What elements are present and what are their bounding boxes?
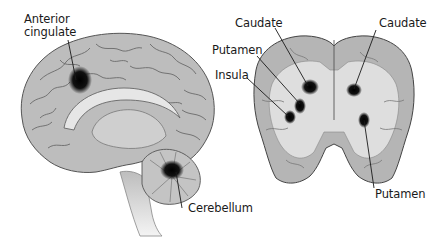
- cerebellum-activation: [160, 160, 184, 180]
- label-caudate-left: Caudate: [235, 17, 283, 30]
- label-anterior-cingulate: Anterior cingulate: [24, 13, 76, 39]
- insula-activation: [284, 110, 296, 124]
- label-caudate-right: Caudate: [379, 17, 427, 30]
- caudate-left-activation: [301, 79, 319, 95]
- label-putamen-left: Putamen: [212, 44, 262, 57]
- label-insula: Insula: [215, 69, 249, 82]
- putamen-left-activation: [294, 98, 306, 114]
- label-putamen-right: Putamen: [375, 188, 425, 201]
- anterior-cingulate-activation: [68, 66, 92, 94]
- label-anterior-cingulate-line2: cingulate: [24, 26, 76, 39]
- cerebrum: [21, 33, 214, 172]
- caudate-right-activation: [346, 83, 362, 97]
- label-cerebellum: Cerebellum: [188, 202, 253, 215]
- coronal-brain: [254, 36, 414, 183]
- sagittal-brain: [21, 33, 214, 236]
